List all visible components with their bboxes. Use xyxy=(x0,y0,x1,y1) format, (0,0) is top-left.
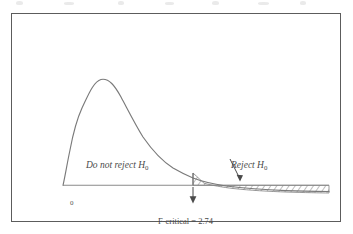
do-not-reject-subscript: 0 xyxy=(145,164,148,171)
critical-pointer-arrow xyxy=(190,187,197,204)
origin-label: 0 xyxy=(70,200,74,207)
do-not-reject-label: Do not reject H0 xyxy=(86,161,148,172)
reject-text: Reject H xyxy=(231,160,264,170)
f-distribution-plot xyxy=(12,14,340,221)
rejection-region xyxy=(193,173,329,193)
density-curve xyxy=(63,79,329,191)
critical-value-label: F-critical = 2.74 xyxy=(158,217,213,226)
scan-artifacts xyxy=(0,0,353,9)
reject-label: Reject H0 xyxy=(231,161,267,172)
do-not-reject-text: Do not reject H xyxy=(86,160,145,170)
reject-subscript: 0 xyxy=(264,164,267,171)
figure-frame: Do not reject H0 Reject H0 0 F-critical … xyxy=(11,13,341,222)
